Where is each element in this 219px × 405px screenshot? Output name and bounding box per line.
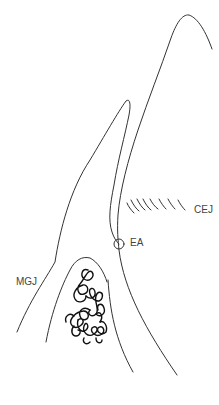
tooth-surface-line [118,15,212,375]
cancellous-bone-scribble [66,270,107,344]
cej-label: CEJ [194,205,213,215]
gingiva-inner-line [108,280,133,372]
ea-label: EA [130,238,143,248]
cej-hatch-marks [127,199,185,213]
diagram-canvas [0,0,219,405]
mgj-label: MGJ [16,277,37,287]
